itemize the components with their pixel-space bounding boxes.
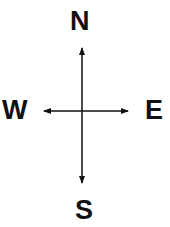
west-label: W bbox=[2, 97, 27, 124]
east-label: E bbox=[145, 97, 163, 124]
north-label: N bbox=[70, 8, 90, 35]
south-label: S bbox=[75, 197, 93, 224]
